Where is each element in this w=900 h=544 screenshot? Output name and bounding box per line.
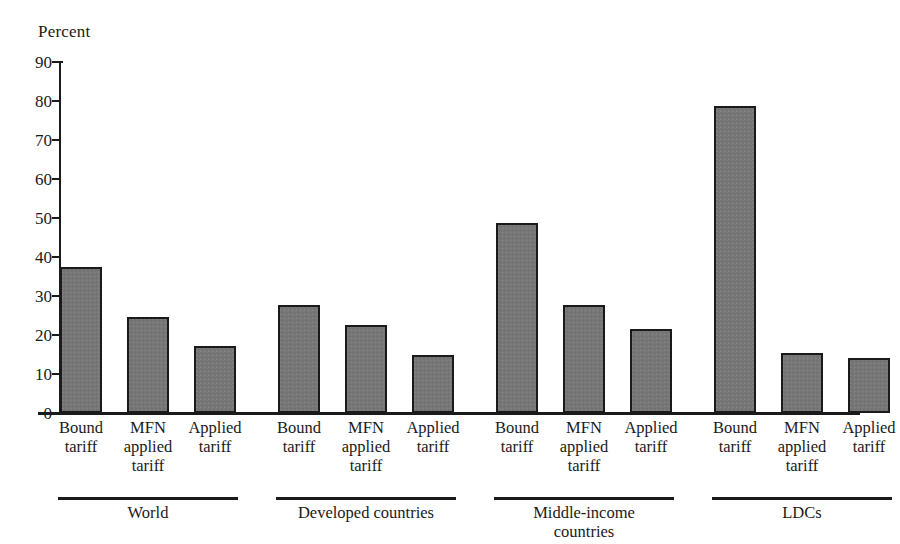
group-rule: [276, 497, 456, 500]
bar: [127, 317, 169, 413]
x-tick-label-line: tariff: [606, 437, 696, 456]
bar: [848, 358, 890, 413]
bar: [278, 305, 320, 413]
bar: [563, 305, 605, 413]
bar: [60, 267, 102, 413]
x-tick-label-line: tariff: [103, 456, 193, 475]
group-label-line: Developed countries: [256, 503, 476, 522]
x-tick-label: Appliedtariff: [606, 418, 696, 456]
bar: [630, 329, 672, 413]
group-label: World: [38, 503, 258, 522]
y-tick-label: 20: [8, 327, 52, 344]
group-label-line: LDCs: [692, 503, 900, 522]
x-tick-label-line: tariff: [824, 437, 900, 456]
x-tick-label-line: tariff: [170, 437, 260, 456]
group-rule: [494, 497, 674, 500]
group-label: Developed countries: [256, 503, 476, 522]
bar: [412, 355, 454, 413]
y-tick-label: 90: [8, 54, 52, 71]
bar: [781, 353, 823, 413]
x-tick-label-line: Applied: [606, 418, 696, 437]
x-tick-label-line: tariff: [321, 456, 411, 475]
group-label-line: countries: [474, 522, 694, 541]
x-tick-label-line: Applied: [170, 418, 260, 437]
group-rule: [712, 497, 892, 500]
bar: [194, 346, 236, 413]
x-tick-label-line: tariff: [539, 456, 629, 475]
x-tick-label-line: tariff: [388, 437, 478, 456]
group-label: LDCs: [692, 503, 900, 522]
bar: [345, 325, 387, 413]
y-tick-label: 60: [8, 171, 52, 188]
x-tick-label: Appliedtariff: [388, 418, 478, 456]
x-tick-label-line: Applied: [388, 418, 478, 437]
x-tick-label: Appliedtariff: [824, 418, 900, 456]
y-tick-label: 50: [8, 210, 52, 227]
group-rule: [58, 497, 238, 500]
x-tick-label-line: tariff: [757, 456, 847, 475]
x-tick-label: Appliedtariff: [170, 418, 260, 456]
bar: [496, 223, 538, 413]
y-axis-tick-labels: 9080706050403020100: [0, 0, 52, 544]
plot-area: [60, 62, 860, 413]
x-tick-label-line: Applied: [824, 418, 900, 437]
y-tick-label: 70: [8, 132, 52, 149]
y-tick-label: 30: [8, 288, 52, 305]
y-tick-label: 80: [8, 93, 52, 110]
bar: [714, 106, 756, 413]
group-label-line: Middle-income: [474, 503, 694, 522]
group-label-line: World: [38, 503, 258, 522]
group-label: Middle-incomecountries: [474, 503, 694, 541]
y-tick-label: 40: [8, 249, 52, 266]
y-tick-label: 10: [8, 366, 52, 383]
